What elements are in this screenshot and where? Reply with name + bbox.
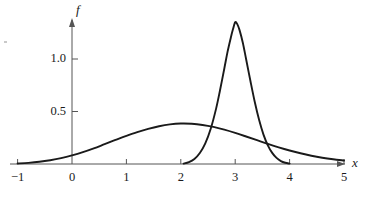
x-tick-label: 3 — [221, 170, 249, 185]
y-axis-label: f — [76, 2, 80, 18]
x-tick-label: 2 — [167, 170, 195, 185]
y-tick-label: 1.0 — [30, 51, 66, 66]
x-tick-label: −1 — [4, 170, 32, 185]
axes-group — [10, 18, 345, 167]
x-tick-label: 1 — [112, 170, 140, 185]
chart-figure: −1012345 0.51.0 f x — [0, 0, 368, 206]
series-group — [18, 22, 344, 164]
scan-artifact — [4, 41, 7, 43]
y-tick-marks — [72, 59, 78, 112]
x-tick-label: 4 — [276, 170, 304, 185]
series-curve-broad-distribution — [18, 124, 344, 164]
x-tick-marks — [18, 159, 344, 164]
x-tick-label: 5 — [330, 170, 358, 185]
series-curve-narrow-peak — [184, 22, 290, 164]
y-axis-arrow — [69, 18, 75, 27]
x-tick-label: 0 — [58, 170, 86, 185]
x-axis-label: x — [352, 155, 358, 171]
y-tick-label: 0.5 — [30, 104, 66, 119]
